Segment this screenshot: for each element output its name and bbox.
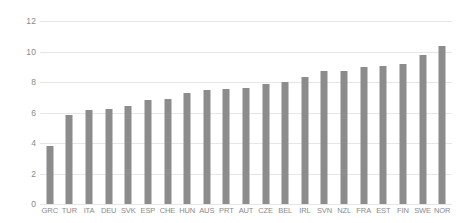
bar[interactable] <box>66 115 73 204</box>
bar[interactable] <box>419 55 426 204</box>
bar[interactable] <box>399 64 406 204</box>
x-axis-tick-label: HUN <box>177 207 197 215</box>
x-axis-tick-label: FIN <box>393 207 413 215</box>
bar-slot <box>374 21 394 204</box>
bar[interactable] <box>301 77 308 204</box>
x-axis-tick-label: TUR <box>60 207 80 215</box>
bar[interactable] <box>164 99 171 204</box>
y-axis-tick-label: 2 <box>2 169 36 178</box>
x-axis-tick-label: CZE <box>256 207 276 215</box>
bar-slot <box>197 21 217 204</box>
bar-slot <box>217 21 237 204</box>
x-axis-tick-label: NOR <box>432 207 452 215</box>
bar[interactable] <box>360 67 367 204</box>
bar[interactable] <box>439 46 446 204</box>
bar-slot <box>177 21 197 204</box>
bar[interactable] <box>46 146 53 204</box>
bar[interactable] <box>380 66 387 204</box>
bar-slot <box>256 21 276 204</box>
y-axis-tick-label: 0 <box>2 200 36 209</box>
y-axis-tick-label: 6 <box>2 108 36 117</box>
bar-slot <box>236 21 256 204</box>
x-axis-tick-label: GRC <box>40 207 60 215</box>
bar-slot <box>79 21 99 204</box>
bar-slot <box>118 21 138 204</box>
plot-area: GRCTURITADEUSVKESPCHEHUNAUSPRTAUTCZEBELI… <box>40 21 452 204</box>
x-axis-tick-label: AUT <box>236 207 256 215</box>
x-axis-tick-label: SVK <box>118 207 138 215</box>
bar-slot <box>295 21 315 204</box>
x-axis-tick-label: FRA <box>354 207 374 215</box>
bar[interactable] <box>86 110 93 204</box>
gridline <box>40 204 452 205</box>
bar-slot <box>315 21 335 204</box>
bar[interactable] <box>203 90 210 204</box>
bar[interactable] <box>184 93 191 204</box>
x-axis-tick-label: BEL <box>275 207 295 215</box>
bar-slot <box>60 21 80 204</box>
bar[interactable] <box>321 71 328 204</box>
bar[interactable] <box>262 84 269 204</box>
bar[interactable] <box>105 109 112 204</box>
bar-chart: 024681012 GRCTURITADEUSVKESPCHEHUNAUSPRT… <box>0 0 460 223</box>
bar[interactable] <box>223 89 230 204</box>
bar[interactable] <box>144 100 151 204</box>
bar-slot <box>138 21 158 204</box>
x-axis-tick-label: ESP <box>138 207 158 215</box>
bar-slot <box>393 21 413 204</box>
bar-slot <box>432 21 452 204</box>
x-axis-tick-label: EST <box>374 207 394 215</box>
bar[interactable] <box>242 88 249 204</box>
x-axis-tick-label: ITA <box>79 207 99 215</box>
x-axis-tick-label: SWE <box>413 207 433 215</box>
bar-slot <box>275 21 295 204</box>
bar-slot <box>334 21 354 204</box>
bar-slot <box>354 21 374 204</box>
x-axis-tick-label: PRT <box>217 207 237 215</box>
x-axis-tick-label: AUS <box>197 207 217 215</box>
bar-slot <box>40 21 60 204</box>
bar-slot <box>413 21 433 204</box>
x-axis-tick-label: SVN <box>315 207 335 215</box>
bar[interactable] <box>125 106 132 204</box>
bar-slot <box>158 21 178 204</box>
y-axis-tick-label: 12 <box>2 17 36 26</box>
y-axis-tick-label: 10 <box>2 47 36 56</box>
y-axis-tick-label: 4 <box>2 139 36 148</box>
bar[interactable] <box>282 82 289 204</box>
y-axis: 024681012 <box>0 21 36 204</box>
bar[interactable] <box>341 71 348 204</box>
x-axis-tick-label: NZL <box>334 207 354 215</box>
x-axis-tick-label: IRL <box>295 207 315 215</box>
x-axis-tick-label: CHE <box>158 207 178 215</box>
y-axis-tick-label: 8 <box>2 78 36 87</box>
x-axis-tick-label: DEU <box>99 207 119 215</box>
bar-slot <box>99 21 119 204</box>
